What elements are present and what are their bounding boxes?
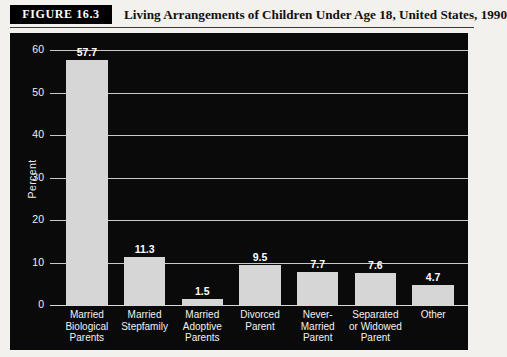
y-axis-tick-mark <box>50 178 58 179</box>
y-axis-tick-label: 40 <box>10 128 44 140</box>
y-axis-tick-mark <box>50 220 58 221</box>
bar-value-label: 7.6 <box>355 259 397 271</box>
category-label-line: Other <box>404 309 462 321</box>
category-label-line: Married <box>289 321 347 333</box>
category-label-line: Never- <box>289 309 347 321</box>
bar <box>412 285 454 305</box>
bar-slot: 9.5 <box>239 50 281 305</box>
category-label-line: Parent <box>347 332 405 344</box>
y-axis-tick-label: 10 <box>10 256 44 268</box>
x-axis-category-label: Other <box>404 309 462 321</box>
category-label-line: Divorced <box>231 309 289 321</box>
bar <box>355 273 397 305</box>
figure-number-badge: FIGURE 16.3 <box>10 5 112 24</box>
bar-slot: 1.5 <box>182 50 224 305</box>
category-label-line: Married <box>173 309 231 321</box>
figure-header: FIGURE 16.3 Living Arrangements of Child… <box>10 5 474 25</box>
x-axis-category-label: Separatedor WidowedParent <box>347 309 405 344</box>
x-axis-category-label: MarriedAdoptiveParents <box>173 309 231 344</box>
figure-title: Living Arrangements of Children Under Ag… <box>124 6 507 24</box>
bar-slot: 7.7 <box>297 50 339 305</box>
bars-layer: 57.711.31.59.57.77.64.7 <box>58 50 462 305</box>
x-axis-category-label: DivorcedParent <box>231 309 289 332</box>
bar <box>297 272 339 305</box>
y-axis-tick-label: 50 <box>10 86 44 98</box>
category-label-line: Parents <box>58 332 116 344</box>
y-axis-tick-mark <box>50 50 58 51</box>
bar-value-label: 11.3 <box>124 243 166 255</box>
bar-slot: 7.6 <box>355 50 397 305</box>
y-axis-tick-label: 20 <box>10 213 44 225</box>
category-label-line: Married <box>116 309 174 321</box>
y-axis-tick-label: 30 <box>10 171 44 183</box>
bar-slot: 4.7 <box>412 50 454 305</box>
bar-value-label: 9.5 <box>239 251 281 263</box>
category-label-line: Biological <box>58 321 116 333</box>
x-axis-baseline <box>50 305 468 306</box>
category-label-line: Married <box>58 309 116 321</box>
bar-value-label: 7.7 <box>297 258 339 270</box>
x-axis-category-label: Never-MarriedParent <box>289 309 347 344</box>
bar <box>66 60 108 305</box>
category-label-line: Adoptive <box>173 321 231 333</box>
bar-slot: 57.7 <box>66 50 108 305</box>
x-axis-category-label: MarriedStepfamily <box>116 309 174 332</box>
bar-slot: 11.3 <box>124 50 166 305</box>
y-axis-tick-mark <box>50 263 58 264</box>
bar <box>239 265 281 305</box>
y-axis-tick-label: 60 <box>10 43 44 55</box>
category-label-line: Separated <box>347 309 405 321</box>
y-axis-tick-mark <box>50 93 58 94</box>
category-label-line: or Widowed <box>347 321 405 333</box>
x-axis-category-labels: MarriedBiologicalParentsMarriedStepfamil… <box>58 309 462 349</box>
bar-value-label: 4.7 <box>412 271 454 283</box>
category-label-line: Stepfamily <box>116 321 174 333</box>
category-label-line: Parent <box>231 321 289 333</box>
header-divider <box>10 27 474 29</box>
chart-panel: Percent 0102030405060 57.711.31.59.57.77… <box>10 33 468 350</box>
bar-value-label: 1.5 <box>182 285 224 297</box>
bar-value-label: 57.7 <box>66 46 108 58</box>
category-label-line: Parents <box>173 332 231 344</box>
x-axis-category-label: MarriedBiologicalParents <box>58 309 116 344</box>
y-axis-tick-mark <box>50 135 58 136</box>
category-label-line: Parent <box>289 332 347 344</box>
bar <box>124 257 166 305</box>
y-axis-tick-label: 0 <box>10 298 44 310</box>
